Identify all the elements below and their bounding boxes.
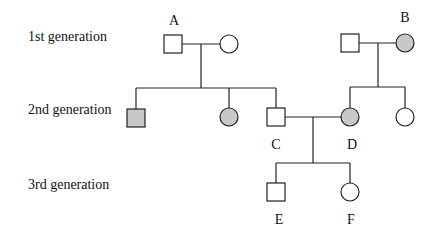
family-a-lines [136,44,276,109]
male-symbol-e [267,183,285,201]
label-e: E [275,212,284,227]
generation-label-2: 2nd generation [28,102,112,117]
label-a: A [169,13,180,28]
label-f: F [347,212,355,227]
female-symbol-unaffected [396,108,414,126]
female-symbol-a-spouse [220,35,238,53]
family-cd-lines [276,117,350,183]
female-symbol-affected [220,108,238,126]
male-symbol-affected [127,109,145,127]
generation-label-3: 3rd generation [28,177,109,192]
male-symbol-a [164,35,182,53]
generation-label-1: 1st generation [28,29,107,44]
pedigree-chart: 1st generation 2nd generation 3rd genera… [0,0,440,243]
male-symbol-b-spouse [341,34,359,52]
label-d: D [347,137,357,152]
male-symbol-c [267,108,285,126]
label-c: C [271,137,280,152]
female-symbol-f [341,183,359,201]
female-symbol-b-affected [396,34,414,52]
female-symbol-d-affected [341,108,359,126]
family-b-lines [350,43,405,108]
label-b: B [400,10,409,25]
